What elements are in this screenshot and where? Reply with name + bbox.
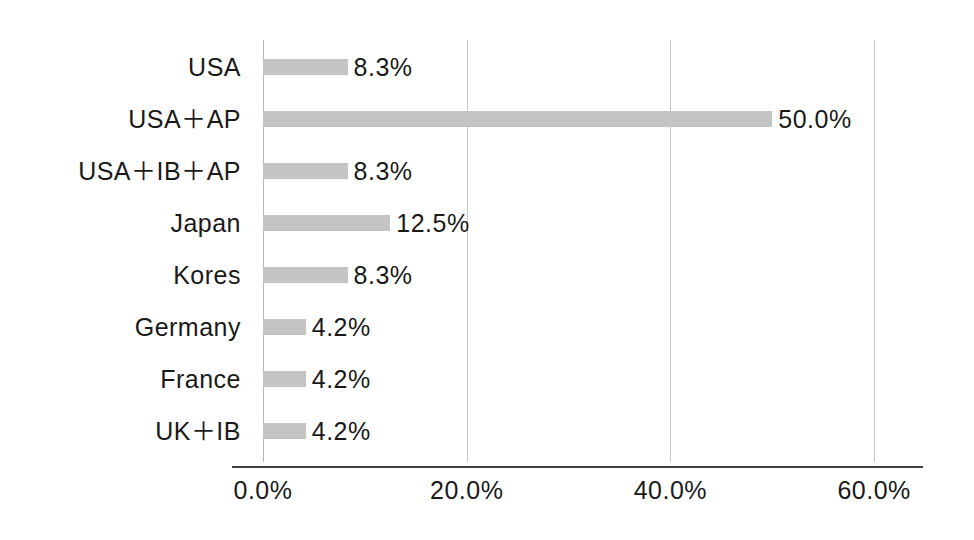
x-tick-label: 0.0% [193, 476, 333, 505]
bar-row: USA＋AP50.0% [263, 93, 923, 145]
plot-area: USA8.3%USA＋AP50.0%USA＋IB＋AP8.3%Japan12.5… [263, 40, 923, 462]
x-tick-label: 60.0% [804, 476, 944, 505]
category-label: Germany [135, 301, 241, 353]
category-label: UK＋IB [155, 405, 241, 457]
category-label: Japan [170, 197, 241, 249]
bar-value-label: 8.3% [354, 41, 413, 93]
category-label: Kores [173, 249, 241, 301]
bar-row: Japan12.5% [263, 197, 923, 249]
bar [263, 59, 348, 75]
bar-row: Kores8.3% [263, 249, 923, 301]
bar [263, 163, 348, 179]
category-label: USA [188, 41, 241, 93]
bar-value-label: 12.5% [396, 197, 469, 249]
bar-value-label: 50.0% [778, 93, 851, 145]
category-label: USA＋AP [128, 93, 241, 145]
bar [263, 215, 390, 231]
category-label: France [160, 353, 241, 405]
bar-row: USA8.3% [263, 41, 923, 93]
x-axis-line [232, 466, 923, 468]
bar-row: France4.2% [263, 353, 923, 405]
x-tick-label: 40.0% [600, 476, 740, 505]
bar-value-label: 8.3% [354, 249, 413, 301]
bar [263, 319, 306, 335]
bar-row: UK＋IB4.2% [263, 405, 923, 457]
bar [263, 267, 348, 283]
bar [263, 111, 772, 127]
bar-row: Germany4.2% [263, 301, 923, 353]
bar-value-label: 4.2% [312, 353, 371, 405]
category-label: USA＋IB＋AP [78, 145, 241, 197]
bar-chart: USA8.3%USA＋AP50.0%USA＋IB＋AP8.3%Japan12.5… [0, 0, 974, 540]
bar-value-label: 8.3% [354, 145, 413, 197]
bar [263, 423, 306, 439]
bar [263, 371, 306, 387]
x-tick-label: 20.0% [397, 476, 537, 505]
bar-value-label: 4.2% [312, 301, 371, 353]
bar-row: USA＋IB＋AP8.3% [263, 145, 923, 197]
bar-value-label: 4.2% [312, 405, 371, 457]
